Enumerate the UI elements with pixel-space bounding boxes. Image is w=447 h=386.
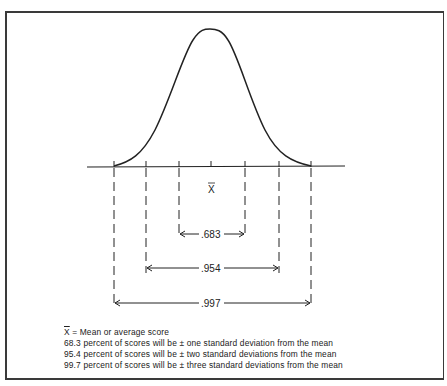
range-label-3sd: .997	[201, 298, 221, 309]
legend-line-2sd: 95.4 percent of scores will be ± two sta…	[64, 349, 343, 360]
legend-line-1sd: 68.3 percent of scores will be ± one sta…	[64, 338, 343, 349]
range-label-2sd: .954	[201, 263, 221, 274]
legend-line-3sd: 99.7 percent of scores will be ± three s…	[64, 360, 343, 371]
baseline-axis	[87, 166, 345, 167]
bell-curve	[114, 29, 311, 166]
mean-definition: = Mean or average score	[70, 327, 169, 337]
mean-label: X	[208, 184, 215, 195]
legend-mean-line: X = Mean or average score	[64, 327, 343, 338]
legend: X = Mean or average score 68.3 percent o…	[64, 327, 343, 371]
range-label-1sd: .683	[201, 229, 221, 240]
